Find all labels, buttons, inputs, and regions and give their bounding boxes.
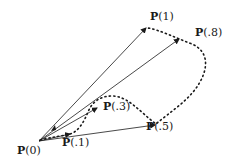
vector-p05 (39, 125, 155, 141)
vector-p1 (39, 28, 146, 141)
label-p08: P(.8) (195, 27, 222, 38)
label-p1: P(1) (150, 11, 174, 22)
vector-curve-diagram (0, 0, 234, 163)
dotted-curve (40, 28, 206, 140)
label-p0: P(0) (17, 145, 41, 156)
label-p05: P(.5) (146, 121, 173, 132)
label-p03: P(.3) (103, 101, 130, 112)
label-p01: P(.1) (62, 137, 89, 148)
